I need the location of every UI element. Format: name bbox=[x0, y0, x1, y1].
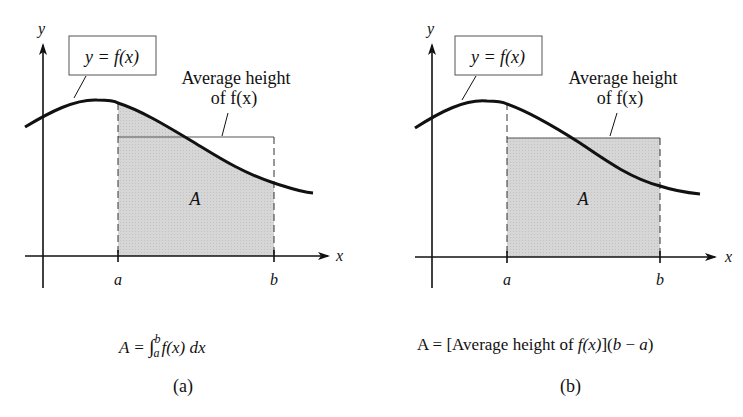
formula-b-close: ) bbox=[648, 335, 654, 354]
formula-b-b: b bbox=[613, 335, 622, 354]
panel-label-a: (a) bbox=[173, 376, 193, 397]
y-axis-label-a: y bbox=[36, 20, 46, 38]
x-axis-label-a: x bbox=[335, 247, 343, 264]
integral-upper-limit: b bbox=[155, 332, 161, 346]
tick-label-b-a: b bbox=[270, 271, 278, 288]
avg-label-pointer-a bbox=[222, 113, 228, 136]
formula-a-lhs: A = bbox=[119, 338, 149, 357]
formula-a-integrand: f(x) dx bbox=[162, 338, 206, 357]
avg-label-line2-a: of f(x) bbox=[211, 88, 257, 109]
tick-label-b-b: b bbox=[656, 271, 664, 288]
formula-b-lhs: A = [Average height of bbox=[417, 335, 578, 354]
area-label-b: A bbox=[577, 189, 590, 209]
formula-b-fx: f(x) bbox=[578, 335, 602, 354]
x-axis-label-b: x bbox=[724, 248, 732, 265]
avg-label-line1-b: Average height bbox=[568, 68, 677, 88]
formula-b: A = [Average height of f(x)](b − a) bbox=[417, 335, 654, 355]
formula-a: A = ∫baf(x) dx bbox=[119, 335, 205, 361]
curve-label-a: y = f(x) bbox=[83, 47, 139, 68]
curve-label-b: y = f(x) bbox=[469, 47, 525, 68]
formula-b-rhs: ]( bbox=[601, 335, 612, 354]
formula-b-a: a bbox=[639, 335, 648, 354]
area-label-a: A bbox=[189, 189, 202, 209]
tick-label-a-a: a bbox=[114, 271, 122, 288]
avg-label-line2-b: of f(x) bbox=[597, 88, 643, 109]
tick-label-a-b: a bbox=[503, 271, 511, 288]
integral-lower-limit: a bbox=[154, 346, 160, 360]
panel-label-b: (b) bbox=[560, 376, 581, 397]
avg-label-pointer-b bbox=[610, 113, 617, 136]
area-under-curve-a bbox=[118, 103, 274, 256]
curve-label-pointer-a bbox=[74, 76, 86, 98]
curve-label-pointer-b bbox=[462, 76, 476, 100]
y-axis-label-b: y bbox=[425, 20, 435, 38]
formula-b-minus: − bbox=[621, 335, 639, 354]
avg-label-line1-a: Average height bbox=[181, 68, 290, 88]
